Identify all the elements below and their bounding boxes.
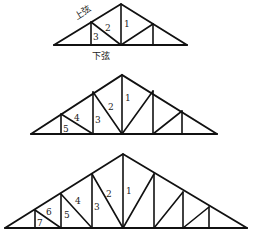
member-label-7: 7 <box>37 218 43 228</box>
member-label-5: 5 <box>64 210 70 220</box>
truss-large: 1 2 3 4 5 6 7 <box>5 154 247 228</box>
bottom-chord-label: 下弦 <box>92 50 110 61</box>
member-label-4: 4 <box>75 196 81 206</box>
top-chord <box>31 75 217 134</box>
truss-diagram: 上弦 下弦 1 2 3 1 2 3 4 5 <box>0 0 255 239</box>
member-label-1: 1 <box>126 186 132 196</box>
truss-small: 上弦 下弦 1 2 3 <box>54 3 187 61</box>
right-diagonal-1 <box>123 174 154 228</box>
member-label-6: 6 <box>46 207 52 217</box>
truss-medium: 1 2 3 4 5 <box>31 75 217 134</box>
member-label-2: 2 <box>108 102 114 112</box>
right-diagonal-outer <box>153 111 182 134</box>
right-diagonal-3 <box>183 207 209 228</box>
member-2-diagonal <box>92 174 123 228</box>
member-label-1: 1 <box>125 93 131 103</box>
right-diagonal-2 <box>154 192 183 228</box>
top-chord-label: 上弦 <box>72 3 93 22</box>
member-label-1: 1 <box>124 19 130 29</box>
member-label-2: 2 <box>106 189 112 199</box>
member-label-5: 5 <box>63 124 69 134</box>
member-label-3: 3 <box>93 32 99 42</box>
member-label-2: 2 <box>105 23 111 33</box>
member-label-3: 3 <box>95 115 101 125</box>
member-label-4: 4 <box>74 113 80 123</box>
member-label-3: 3 <box>94 202 100 212</box>
member-2-diagonal <box>93 92 122 134</box>
